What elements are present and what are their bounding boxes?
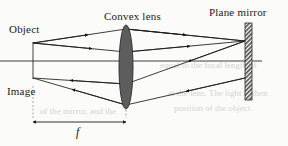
- ray-lens-to-mirror-upper2-arrow: [126, 46, 190, 52]
- ray-object-to-lens-upper2-arrow: [33, 43, 92, 49]
- object-label: Object: [9, 23, 40, 35]
- optics-ray-diagram-figure: of the mirror, and the equal to the foca…: [0, 0, 288, 146]
- ray-object-to-lens-upper-arrow: [33, 35, 88, 43]
- focal-length-label: f: [76, 125, 80, 140]
- ray-lens-to-image-lowest-arrow: [72, 89, 126, 105]
- ray-mirror-lower-to-lens-arrow: [186, 78, 245, 91]
- image-label: Image: [7, 85, 35, 97]
- plane-mirror-body: [245, 23, 252, 100]
- plane-mirror-label: Plane mirror: [209, 6, 267, 18]
- ray-mirror-to-lens-lower-return-arrow: [188, 41, 245, 62]
- ray-lens-to-image-lower-arrow: [70, 80, 126, 84]
- convex-lens-label: Convex lens: [104, 10, 161, 22]
- ray-mirror-upper-to-lens-top: [126, 29, 245, 41]
- convex-lens-body: [119, 25, 133, 109]
